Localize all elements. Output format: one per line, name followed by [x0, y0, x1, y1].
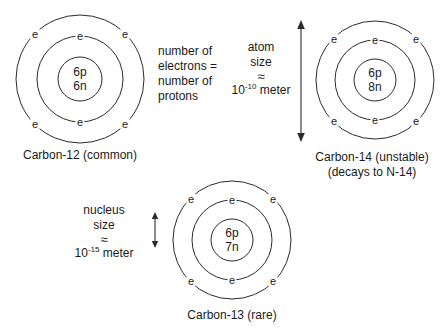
nucleus-label: 6p 8n — [368, 66, 381, 94]
electron-marker: e — [329, 116, 338, 127]
electron-marker: e — [186, 276, 195, 287]
note-line: nucleus — [75, 203, 134, 218]
note-line: size — [75, 218, 134, 233]
note-line: number of — [158, 44, 217, 59]
caption-carbon-12: Carbon-12 (common) — [23, 148, 137, 163]
proton-count: 6p — [73, 65, 86, 79]
electron-marker: e — [227, 195, 236, 206]
neutron-count: 7n — [225, 240, 238, 254]
note-electron-proton-rule: number of electrons = number of protons — [158, 44, 217, 104]
note-atom-size: atom size ≈ 10-10 meter — [232, 40, 291, 98]
electron-marker: e — [30, 119, 39, 130]
electron-marker: e — [268, 276, 277, 287]
electron-marker: e — [329, 34, 338, 45]
electron-marker: e — [370, 35, 379, 46]
neutron-count: 8n — [368, 80, 381, 94]
proton-count: 6p — [368, 66, 381, 80]
caption-line: (decays to N-14) — [315, 165, 428, 180]
caption-line: Carbon-14 (unstable) — [315, 150, 428, 165]
caption-carbon-14: Carbon-14 (unstable) (decays to N-14) — [315, 150, 428, 180]
electron-marker: e — [227, 275, 236, 286]
electron-marker: e — [75, 31, 84, 42]
atom-size-value: 10-10 meter — [232, 83, 291, 98]
nucleus-label: 6p 7n — [225, 226, 238, 254]
value-base: 10 — [75, 246, 88, 260]
nucleus-size-arrow — [149, 212, 161, 248]
electron-marker: e — [370, 115, 379, 126]
nucleus-size-value: 10-15 meter — [75, 246, 134, 261]
note-line: protons — [158, 89, 217, 104]
electron-marker: e — [268, 194, 277, 205]
atom-carbon-12: 6p 6n e e e e e e — [10, 12, 150, 146]
electron-marker: e — [411, 116, 420, 127]
approx-symbol: ≈ — [232, 70, 291, 83]
value-exponent: -10 — [245, 82, 257, 91]
note-line: size — [232, 55, 291, 70]
atom-size-arrow — [294, 20, 308, 142]
electron-marker: e — [30, 29, 39, 40]
electron-marker: e — [75, 117, 84, 128]
caption-carbon-13: Carbon-13 (rare) — [187, 308, 276, 323]
note-line: number of — [158, 74, 217, 89]
electron-marker: e — [120, 29, 129, 40]
value-unit: meter — [260, 83, 291, 97]
value-unit: meter — [103, 246, 134, 260]
value-base: 10 — [232, 83, 245, 97]
atom-carbon-13: 6p 7n e e e e e e — [170, 178, 294, 302]
proton-count: 6p — [225, 226, 238, 240]
electron-marker: e — [186, 194, 195, 205]
diagram-canvas: 6p 6n e e e e e e Carbon-12 (common) num… — [0, 0, 442, 335]
note-line: electrons = — [158, 59, 217, 74]
electron-marker: e — [411, 34, 420, 45]
note-line: atom — [232, 40, 291, 55]
neutron-count: 6n — [73, 79, 86, 93]
note-nucleus-size: nucleus size ≈ 10-15 meter — [75, 203, 134, 261]
atom-carbon-14: 6p 8n e e e e e e — [313, 18, 437, 142]
electron-marker: e — [120, 119, 129, 130]
approx-symbol: ≈ — [75, 233, 134, 246]
value-exponent: -15 — [88, 245, 100, 254]
nucleus-label: 6p 6n — [73, 65, 86, 93]
